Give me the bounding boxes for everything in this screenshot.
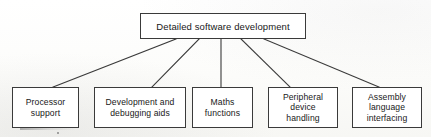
node-label-processor-support: Processor support bbox=[23, 97, 69, 118]
node-label-development-and-debugging-aids: Development and debugging aids bbox=[103, 97, 178, 118]
node-assembly-language-interfacing[interactable]: Assembly language interfacing bbox=[352, 87, 422, 128]
node-label-detailed-software-development: Detailed software development bbox=[153, 21, 292, 32]
connector-detailed-software-development-to-processor-support bbox=[53, 39, 176, 87]
node-peripheral-device-handling[interactable]: Peripheral device handling bbox=[268, 87, 338, 128]
node-processor-support[interactable]: Processor support bbox=[12, 87, 79, 128]
node-detailed-software-development[interactable]: Detailed software development bbox=[140, 13, 306, 39]
node-label-assembly-language-interfacing: Assembly language interfacing bbox=[364, 92, 411, 124]
node-label-maths-functions: Maths functions bbox=[202, 97, 243, 118]
software-development-tree-diagram: Detailed software development Processor … bbox=[0, 0, 431, 137]
node-development-and-debugging-aids[interactable]: Development and debugging aids bbox=[94, 87, 186, 128]
node-maths-functions[interactable]: Maths functions bbox=[192, 87, 253, 128]
connector-detailed-software-development-to-assembly-language-interfacing bbox=[264, 39, 379, 87]
node-label-peripheral-device-handling: Peripheral device handling bbox=[280, 92, 326, 124]
